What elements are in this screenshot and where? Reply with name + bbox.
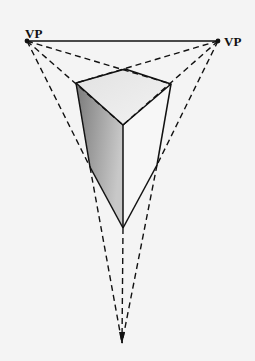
bottom-vp-arrow <box>119 332 125 344</box>
right-vp-dot <box>216 39 221 44</box>
right-vp-label: VP <box>224 34 241 49</box>
perspective-diagram: VP VP <box>0 0 255 361</box>
left-vp-label: VP <box>25 26 42 41</box>
